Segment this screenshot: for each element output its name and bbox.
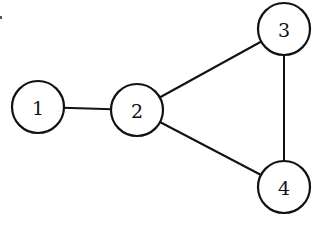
node-1: 1 — [12, 81, 64, 133]
corner-mark — [0, 16, 2, 19]
node-label: 2 — [131, 100, 143, 122]
graph-diagram: 1234 — [0, 0, 326, 227]
node-label: 1 — [32, 97, 44, 119]
node-label: 4 — [278, 177, 290, 199]
node-layer: 1234 — [12, 3, 310, 213]
node-2: 2 — [111, 84, 163, 136]
node-3: 3 — [258, 3, 310, 55]
node-4: 4 — [258, 161, 310, 213]
node-label: 3 — [278, 19, 290, 41]
